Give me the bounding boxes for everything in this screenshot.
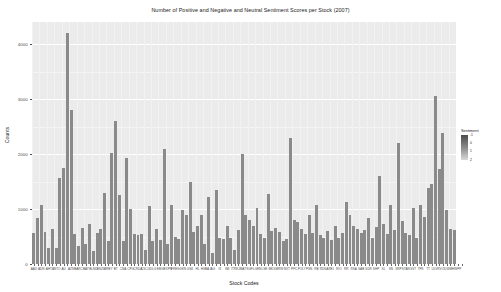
bar[interactable] <box>430 184 433 264</box>
bar[interactable] <box>55 248 58 265</box>
bar[interactable] <box>326 231 329 264</box>
bar[interactable] <box>434 96 437 264</box>
bar[interactable] <box>334 226 337 265</box>
bar[interactable] <box>203 244 206 264</box>
bar[interactable] <box>114 121 117 264</box>
bar[interactable] <box>62 168 65 264</box>
bar[interactable] <box>233 250 236 264</box>
bar[interactable] <box>148 206 151 264</box>
bar[interactable] <box>215 190 218 264</box>
bar[interactable] <box>375 227 378 264</box>
bar[interactable] <box>300 229 303 264</box>
bar[interactable] <box>84 244 87 264</box>
bar[interactable] <box>423 217 426 264</box>
bar[interactable] <box>226 226 229 265</box>
bar[interactable] <box>70 110 73 264</box>
bar[interactable] <box>44 232 47 264</box>
bar[interactable] <box>200 215 203 265</box>
bar[interactable] <box>32 233 35 264</box>
bar[interactable] <box>393 230 396 264</box>
bar[interactable] <box>192 232 195 264</box>
bar[interactable] <box>311 233 314 264</box>
bar[interactable] <box>308 215 311 265</box>
bar[interactable] <box>103 193 106 265</box>
bar[interactable] <box>51 229 54 264</box>
bar[interactable] <box>449 229 452 264</box>
bar[interactable] <box>58 178 61 264</box>
bar[interactable] <box>181 210 184 264</box>
bar[interactable] <box>378 176 381 264</box>
bar[interactable] <box>360 233 363 264</box>
bar[interactable] <box>66 33 69 264</box>
bar[interactable] <box>345 202 348 264</box>
bar[interactable] <box>445 210 448 264</box>
bar[interactable] <box>397 143 400 264</box>
bar[interactable] <box>408 235 411 264</box>
bar[interactable] <box>96 233 99 264</box>
bar[interactable] <box>40 205 43 264</box>
bar[interactable] <box>322 238 325 264</box>
bar[interactable] <box>293 220 296 264</box>
bar[interactable] <box>270 231 273 264</box>
bar[interactable] <box>412 208 415 264</box>
bar[interactable] <box>36 218 39 264</box>
bar[interactable] <box>47 248 50 265</box>
bar[interactable] <box>337 238 340 264</box>
bar[interactable] <box>77 246 80 264</box>
bar[interactable] <box>278 232 281 264</box>
bar[interactable] <box>419 205 422 264</box>
bar[interactable] <box>259 234 262 264</box>
bar[interactable] <box>237 230 240 264</box>
bar[interactable] <box>296 222 299 264</box>
bar[interactable] <box>352 226 355 265</box>
bar[interactable] <box>122 241 125 264</box>
bar[interactable] <box>241 154 244 264</box>
bar[interactable] <box>110 153 113 264</box>
bar[interactable] <box>244 215 247 265</box>
bar[interactable] <box>81 228 84 264</box>
bar[interactable] <box>177 239 180 264</box>
bar[interactable] <box>218 238 221 264</box>
bar[interactable] <box>222 239 225 264</box>
bar[interactable] <box>99 229 102 264</box>
bar[interactable] <box>133 234 136 264</box>
bar[interactable] <box>151 241 154 264</box>
bar[interactable] <box>185 215 188 265</box>
bar[interactable] <box>107 241 110 264</box>
bar[interactable] <box>140 234 143 264</box>
bar[interactable] <box>386 234 389 264</box>
bar[interactable] <box>371 238 374 264</box>
bar[interactable] <box>363 230 366 264</box>
bar[interactable] <box>330 240 333 264</box>
bar[interactable] <box>256 208 259 264</box>
bar[interactable] <box>189 182 192 265</box>
bar[interactable] <box>137 235 140 264</box>
bar[interactable] <box>274 228 277 264</box>
bar[interactable] <box>382 224 385 264</box>
bar[interactable] <box>367 218 370 264</box>
bar[interactable] <box>92 251 95 264</box>
bar[interactable] <box>73 234 76 264</box>
bar[interactable] <box>319 235 322 264</box>
bar[interactable] <box>163 149 166 265</box>
bar[interactable] <box>263 238 266 264</box>
bar[interactable] <box>166 244 169 264</box>
bar[interactable] <box>441 133 444 264</box>
bar[interactable] <box>170 205 173 264</box>
bar[interactable] <box>144 250 147 264</box>
bar[interactable] <box>289 138 292 265</box>
bar[interactable] <box>304 234 307 264</box>
bar[interactable] <box>88 224 91 264</box>
bar[interactable] <box>196 226 199 265</box>
bar[interactable] <box>341 233 344 264</box>
bar[interactable] <box>349 215 352 265</box>
bar[interactable] <box>211 253 214 264</box>
bar[interactable] <box>155 229 158 264</box>
bar[interactable] <box>159 240 162 264</box>
bar[interactable] <box>389 205 392 264</box>
bar[interactable] <box>248 220 251 264</box>
bar[interactable] <box>404 233 407 264</box>
bar[interactable] <box>229 238 232 264</box>
bar[interactable] <box>282 241 285 264</box>
bar[interactable] <box>427 188 430 264</box>
